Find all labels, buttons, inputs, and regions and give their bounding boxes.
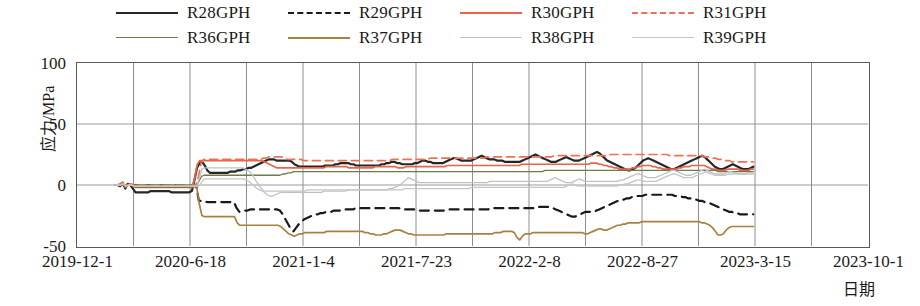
x-tick-label: 2019-12-1: [42, 252, 113, 272]
legend-label: R37GPH: [359, 28, 423, 48]
chart-figure: R28GPHR29GPHR30GPHR31GPHR36GPHR37GPHR38G…: [0, 0, 920, 306]
legend-item-r36gph[interactable]: R36GPH: [116, 28, 288, 48]
legend-item-r30gph[interactable]: R30GPH: [460, 3, 632, 23]
x-tick-label: 2023-3-15: [720, 252, 791, 272]
series-line-r37gph: [115, 185, 753, 240]
series-canvas: [77, 63, 868, 246]
legend-row: R28GPHR29GPHR30GPHR31GPH: [0, 0, 920, 25]
x-axis-title: 日期: [843, 276, 875, 300]
x-tick-label: 2021-1-4: [272, 252, 334, 272]
x-tick-label: 2023-10-1: [833, 252, 904, 272]
legend-item-r37gph[interactable]: R37GPH: [288, 28, 460, 48]
y-tick-label: 100: [0, 54, 66, 74]
chart-legend: R28GPHR29GPHR30GPHR31GPHR36GPHR37GPHR38G…: [0, 0, 920, 50]
legend-label: R31GPH: [703, 3, 767, 23]
plot-area: [76, 62, 870, 248]
y-tick-label: 50: [0, 115, 66, 135]
legend-label: R30GPH: [531, 3, 595, 23]
x-tick-label: 2021-7-23: [381, 252, 452, 272]
x-tick-label: 2022-2-8: [498, 252, 560, 272]
legend-item-r29gph[interactable]: R29GPH: [288, 3, 460, 23]
series-line-r29gph: [115, 185, 753, 231]
y-tick-label: 0: [0, 176, 66, 196]
legend-item-r38gph[interactable]: R38GPH: [460, 28, 632, 48]
legend-item-r39gph[interactable]: R39GPH: [632, 28, 804, 48]
legend-label: R29GPH: [359, 3, 423, 23]
x-tick-label: 2022-8-27: [607, 252, 678, 272]
legend-item-r31gph[interactable]: R31GPH: [632, 3, 804, 23]
legend-label: R38GPH: [531, 28, 595, 48]
legend-label: R28GPH: [187, 3, 251, 23]
legend-row: R36GPHR37GPHR38GPHR39GPH: [0, 25, 920, 50]
legend-item-r28gph[interactable]: R28GPH: [116, 3, 288, 23]
legend-label: R36GPH: [187, 28, 251, 48]
x-axis-tick-labels: 2019-12-12020-6-182021-1-42021-7-232022-…: [0, 252, 920, 278]
plot-wrapper: 应力/MPa 100500-50 2019-12-12020-6-182021-…: [0, 52, 920, 306]
series-line-r30gph: [115, 161, 753, 188]
legend-label: R39GPH: [703, 28, 767, 48]
x-tick-label: 2020-6-18: [155, 252, 226, 272]
series-line-r39gph: [115, 172, 753, 192]
